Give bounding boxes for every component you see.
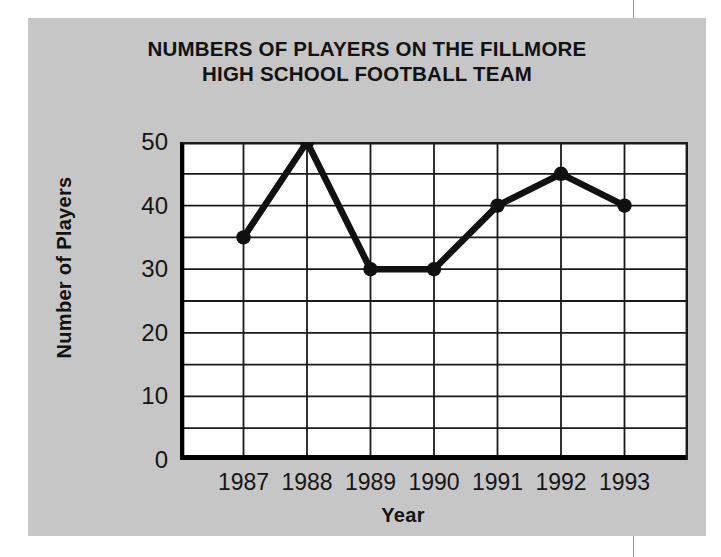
y-tick-label-0: 0: [108, 448, 168, 472]
plot-area: [180, 142, 688, 460]
chart-title-line-1: NUMBERS OF PLAYERS ON THE FILLMORE: [28, 36, 706, 61]
x-axis-title: Year: [148, 504, 658, 527]
line-chart-svg: [180, 142, 688, 460]
y-axis-title: Number of Players: [53, 153, 76, 383]
data-point-1987: [236, 230, 250, 244]
data-point-1990: [427, 262, 441, 276]
y-tick-label-50: 50: [108, 130, 168, 154]
y-tick-label-40: 40: [108, 194, 168, 218]
chart-figure-panel: NUMBERS OF PLAYERS ON THE FILLMORE HIGH …: [28, 18, 706, 536]
data-point-1993: [617, 198, 631, 212]
y-tick-label-20: 20: [108, 321, 168, 345]
data-point-1989: [363, 262, 377, 276]
x-tick-label-1993: 1993: [580, 469, 670, 495]
chart-title-line-2: HIGH SCHOOL FOOTBALL TEAM: [28, 61, 706, 86]
y-tick-label-10: 10: [108, 384, 168, 408]
y-axis-tick-labels: 01020304050: [96, 142, 168, 460]
data-point-1991: [490, 198, 504, 212]
data-point-1992: [554, 167, 568, 181]
y-tick-label-30: 30: [108, 257, 168, 281]
x-axis-tick-labels: 1987198819891990199119921993: [180, 469, 688, 499]
chart-title: NUMBERS OF PLAYERS ON THE FILLMORE HIGH …: [28, 36, 706, 86]
